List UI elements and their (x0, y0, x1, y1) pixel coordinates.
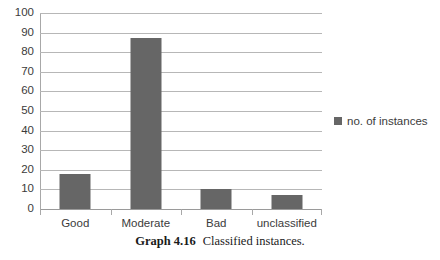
figure-caption: Graph 4.16Classified instances. (0, 234, 440, 249)
bar-moderate[interactable] (130, 38, 161, 209)
bar-unclassified[interactable] (271, 195, 302, 209)
y-tick-label-0: 0 (0, 203, 34, 215)
x-label-good: Good (40, 217, 111, 231)
y-tick-label-30: 30 (0, 144, 34, 156)
x-label-unclassified: unclassified (252, 217, 323, 231)
y-axis-tick-labels: 0102030405060708090100 (0, 13, 34, 209)
legend-swatch-icon (334, 117, 342, 125)
y-tick-label-80: 80 (0, 46, 34, 58)
x-tick-0 (40, 209, 41, 215)
bar-slot-moderate (111, 13, 182, 209)
x-label-moderate: Moderate (111, 217, 182, 231)
bar-good[interactable] (60, 174, 91, 209)
y-tick-label-40: 40 (0, 125, 34, 137)
x-label-bad: Bad (181, 217, 252, 231)
x-tick-2 (181, 209, 182, 215)
bar-slot-unclassified (252, 13, 323, 209)
y-tick-label-50: 50 (0, 105, 34, 117)
x-axis-category-labels: GoodModerateBadunclassified (40, 217, 322, 233)
y-tick-label-10: 10 (0, 184, 34, 196)
y-tick-label-60: 60 (0, 86, 34, 98)
x-tick-4 (321, 209, 322, 215)
bar-slot-bad (181, 13, 252, 209)
y-tick-label-70: 70 (0, 66, 34, 78)
legend-label: no. of instances (347, 115, 428, 127)
chart-legend: no. of instances (334, 115, 428, 127)
caption-text: Classified instances. (203, 234, 305, 248)
bar-bad[interactable] (201, 189, 232, 209)
y-tick-label-90: 90 (0, 27, 34, 39)
x-axis-ticks (40, 209, 322, 215)
plot-area (40, 13, 322, 209)
y-tick-label-20: 20 (0, 164, 34, 176)
x-tick-3 (252, 209, 253, 215)
y-tick-label-100: 100 (0, 7, 34, 19)
x-tick-1 (111, 209, 112, 215)
caption-number: Graph 4.16 (135, 234, 195, 248)
chart-screenshot: 0102030405060708090100 GoodModerateBadun… (0, 0, 440, 260)
bar-slot-good (40, 13, 111, 209)
